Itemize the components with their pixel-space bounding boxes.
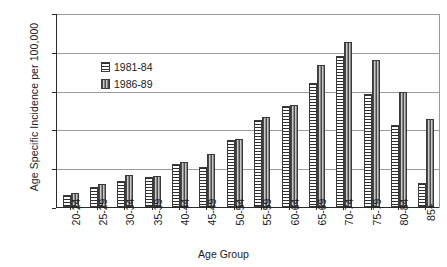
x-tick-label: 40-44	[179, 199, 191, 226]
bar-group	[249, 13, 276, 207]
x-tick-label: 85+	[425, 203, 437, 221]
legend-swatch-1986-89-icon	[101, 79, 110, 89]
bar	[262, 117, 270, 207]
bar	[309, 83, 317, 207]
legend-label: 1981-84	[114, 61, 153, 73]
legend-label: 1986-89	[114, 78, 153, 90]
bar-group	[139, 13, 166, 207]
y-axis-title: Age Specific Incidence per 100,000	[28, 7, 40, 207]
bar	[290, 105, 298, 207]
y-tick-mark	[52, 53, 56, 54]
x-tick-label: 50-54	[234, 199, 246, 226]
x-axis-title: Age Group	[0, 248, 447, 260]
bar-group	[331, 13, 358, 207]
x-tick-label: 65-69	[316, 199, 328, 226]
x-tick-label: 35-39	[152, 199, 164, 226]
bar-group	[276, 13, 303, 207]
bar	[254, 120, 262, 207]
y-tick-mark	[52, 208, 56, 209]
bar	[235, 139, 243, 207]
bar-group	[413, 13, 440, 207]
bar-group	[84, 13, 111, 207]
bar-groups	[57, 13, 440, 207]
x-tick-label: 20-24	[70, 199, 82, 226]
bar	[282, 106, 290, 207]
bar	[372, 60, 380, 207]
x-tick-label: 45-49	[206, 199, 218, 226]
y-tick-mark	[52, 92, 56, 93]
bar-group	[166, 13, 193, 207]
x-tick-label: 60-64	[289, 199, 301, 226]
bar-group	[57, 13, 84, 207]
bar-group	[385, 13, 412, 207]
y-tick-mark	[52, 14, 56, 15]
bar	[391, 125, 399, 207]
bar-group	[194, 13, 221, 207]
legend: 1981-84 1986-89	[101, 59, 153, 93]
x-tick-label: 25-29	[97, 199, 109, 226]
bar-group	[112, 13, 139, 207]
bar-group	[303, 13, 330, 207]
legend-item: 1986-89	[101, 76, 153, 91]
bar	[399, 92, 407, 207]
x-tick-label: 30-34	[124, 199, 136, 226]
bar	[344, 42, 352, 207]
legend-swatch-1981-84-icon	[101, 62, 110, 72]
bar	[364, 94, 372, 207]
bar-group	[358, 13, 385, 207]
legend-item: 1981-84	[101, 59, 153, 74]
plot-area	[56, 14, 439, 208]
bar	[426, 119, 434, 207]
y-tick-mark	[52, 130, 56, 131]
bar	[227, 140, 235, 208]
bar	[336, 56, 344, 207]
x-tick-label: 70-74	[343, 199, 355, 226]
x-tick-label: 75-79	[371, 199, 383, 226]
x-tick-label: 80-84	[398, 199, 410, 226]
bar-group	[221, 13, 248, 207]
bar	[317, 65, 325, 207]
incidence-bar-chart: Age Specific Incidence per 100,000 05101…	[0, 0, 447, 267]
y-tick-mark	[52, 169, 56, 170]
x-tick-label: 55-59	[261, 199, 273, 226]
